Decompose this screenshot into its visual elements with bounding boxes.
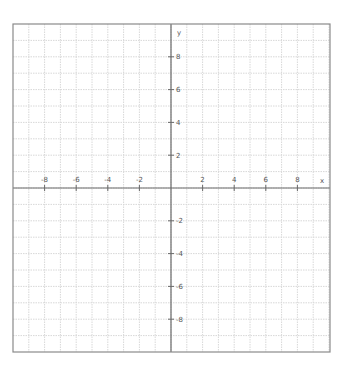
x-tick-label: 4 <box>232 176 237 184</box>
x-tick-label: -4 <box>104 176 112 184</box>
y-axis-label: y <box>177 29 181 37</box>
x-axis-label: x <box>320 177 324 185</box>
x-tick-label: 6 <box>264 176 269 184</box>
y-tick-label: -6 <box>176 283 184 291</box>
y-tick-label: -2 <box>176 217 183 225</box>
coordinate-plane: -8-6-4-224688642-2-4-6-8 x y <box>0 0 339 367</box>
x-tick-label: 2 <box>200 176 204 184</box>
y-tick-label: 2 <box>176 152 180 160</box>
x-tick-label: -2 <box>136 176 143 184</box>
x-tick-label: -6 <box>73 176 81 184</box>
y-tick-label: 8 <box>176 53 180 61</box>
x-tick-label: -8 <box>41 176 48 184</box>
y-tick-label: 4 <box>176 119 181 127</box>
y-tick-label: -8 <box>176 316 183 324</box>
x-tick-label: 8 <box>295 176 299 184</box>
y-tick-label: 6 <box>176 86 181 94</box>
y-tick-label: -4 <box>176 250 184 258</box>
